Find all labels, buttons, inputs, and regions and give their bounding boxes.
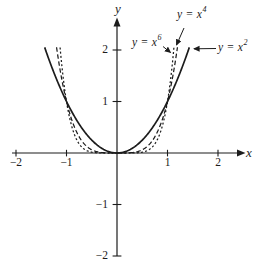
curve-label-y-x6: y = x6: [132, 37, 162, 49]
curve-label-y-x2-base: y = x: [218, 41, 243, 53]
x-tick-label-neg2: −2: [5, 157, 27, 169]
x-tick-label-1: 1: [157, 157, 179, 169]
y-tick-label-neg1: −1: [78, 199, 108, 211]
leader-arrow-y-x6: [163, 47, 171, 53]
x-axis-arrow-icon: [237, 150, 246, 157]
curve-label-y-x4-base: y = x: [177, 8, 202, 20]
curve-label-y-x6-base: y = x: [132, 36, 157, 48]
curve-label-y-x4: y = x4: [177, 9, 207, 21]
curve-label-y-x2-exponent: 2: [244, 38, 248, 47]
x-axis-label: x: [246, 146, 252, 159]
y-axis-arrow-icon: [114, 18, 121, 27]
x-tick-label-neg1: −1: [56, 157, 78, 169]
leader-arrow-y-x4: [177, 28, 185, 45]
y-tick-label-2: 2: [78, 44, 108, 56]
y-axis-label: y: [115, 2, 121, 15]
y-tick-label-neg2: −2: [78, 250, 108, 262]
curve-label-y-x2: y = x2: [218, 42, 248, 54]
power-functions-figure: y x −2 −1 1 2 2 1 −1 −2 y = x4 y = x6 y …: [0, 0, 259, 275]
curve-label-y-x6-exponent: 6: [158, 33, 162, 42]
x-tick-label-2: 2: [207, 157, 229, 169]
curve-label-y-x4-exponent: 4: [203, 5, 207, 14]
y-tick-label-1: 1: [78, 96, 108, 108]
